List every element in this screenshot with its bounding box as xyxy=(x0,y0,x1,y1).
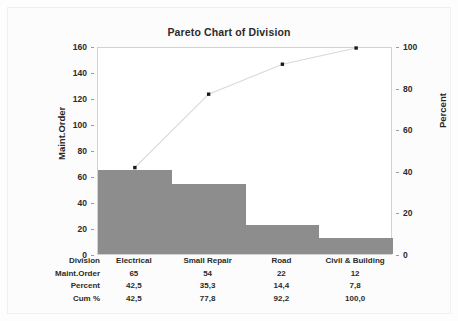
y-axis-left-tick-label: 100 xyxy=(73,121,87,130)
table-cell: Small Repair xyxy=(171,256,245,265)
y-axis-right-tick xyxy=(396,47,399,48)
table-cell: 92,2 xyxy=(245,294,319,303)
table-cell: Civil & Building xyxy=(318,256,392,265)
table-cell: 35,3 xyxy=(171,281,245,290)
bars-container xyxy=(98,48,391,254)
table-cell: Electrical xyxy=(97,256,171,265)
y-axis-right-tick-label: 100 xyxy=(403,43,417,52)
y-axis-left-tick xyxy=(91,177,94,178)
table-row-label: Division xyxy=(0,256,100,265)
y-axis-right-tick xyxy=(396,213,399,214)
table-cell: 42,5 xyxy=(97,294,171,303)
y-axis-right-title: Percent xyxy=(437,93,448,128)
y-axis-right-tick-label: 60 xyxy=(403,126,412,135)
table-cell: 7,8 xyxy=(318,281,392,290)
table-row: Percent42,535,314,47,8 xyxy=(0,281,458,293)
bar xyxy=(319,238,393,254)
table-cell: Road xyxy=(245,256,319,265)
y-axis-left-tick xyxy=(91,125,94,126)
data-table: DivisionElectricalSmall RepairRoadCivil … xyxy=(0,256,458,314)
table-row-label: Percent xyxy=(0,281,100,290)
y-axis-left-tick-label: 120 xyxy=(73,95,87,104)
table-row: DivisionElectricalSmall RepairRoadCivil … xyxy=(0,256,458,268)
table-row-label: Maint.Order xyxy=(0,269,100,278)
y-axis-right-tick xyxy=(396,172,399,173)
y-axis-left-tick-label: 160 xyxy=(73,43,87,52)
y-axis-left-tick-label: 40 xyxy=(78,199,87,208)
table-cell: 42,5 xyxy=(97,281,171,290)
y-axis-left-tick-label: 20 xyxy=(78,225,87,234)
table-cell: 77,8 xyxy=(171,294,245,303)
y-axis-left-tick xyxy=(91,203,94,204)
table-cell: 12 xyxy=(318,269,392,278)
y-axis-left-tick xyxy=(91,73,94,74)
chart-title: Pareto Chart of Division xyxy=(0,26,458,38)
y-axis-left-tick xyxy=(91,47,94,48)
table-cell: 22 xyxy=(245,269,319,278)
y-axis-left-tick-label: 80 xyxy=(78,147,87,156)
y-axis-left-title: Maint.Order xyxy=(56,107,67,160)
table-cell: 14,4 xyxy=(245,281,319,290)
y-axis-right-tick-label: 20 xyxy=(403,209,412,218)
table-cell: 100,0 xyxy=(318,294,392,303)
bar xyxy=(246,225,320,254)
table-cell: 65 xyxy=(97,269,171,278)
y-axis-left: Maint.Order 020406080100120140160 xyxy=(72,40,94,265)
y-axis-right-tick xyxy=(396,130,399,131)
table-row: Maint.Order65542212 xyxy=(0,269,458,281)
y-axis-left-tick-label: 140 xyxy=(73,69,87,78)
y-axis-left-tick xyxy=(91,151,94,152)
table-cell: 54 xyxy=(171,269,245,278)
bar xyxy=(98,170,172,255)
pareto-chart-figure: Pareto Chart of Division Maint.Order 020… xyxy=(0,0,458,321)
y-axis-right-tick xyxy=(396,89,399,90)
y-axis-right-tick-label: 40 xyxy=(403,168,412,177)
y-axis-left-tick xyxy=(91,99,94,100)
y-axis-right: 020406080100 xyxy=(396,40,422,265)
table-row: Cum %42,577,892,2100,0 xyxy=(0,294,458,306)
bar xyxy=(172,184,246,254)
y-axis-left-tick-label: 60 xyxy=(78,173,87,182)
table-row-label: Cum % xyxy=(0,294,100,303)
y-axis-right-tick-label: 80 xyxy=(403,85,412,94)
plot-area xyxy=(97,47,392,255)
y-axis-left-tick xyxy=(91,229,94,230)
